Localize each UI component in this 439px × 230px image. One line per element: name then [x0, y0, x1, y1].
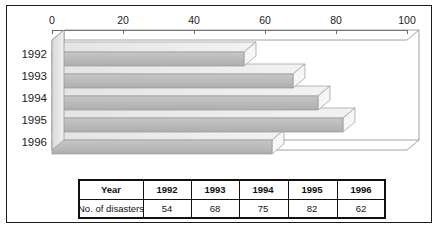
x-tick-label: 0	[49, 14, 55, 26]
x-tick-label: 80	[330, 14, 342, 26]
bar-1992	[52, 42, 256, 66]
y-axis-category-labels: 1992 1993 1994 1995 1996	[21, 48, 47, 148]
table-cell: 1996	[350, 184, 371, 195]
table-cell: 1992	[156, 184, 177, 195]
category-label: 1993	[21, 70, 47, 82]
x-tick-label: 20	[117, 14, 129, 26]
wall-top-right-edge	[407, 30, 419, 40]
bar-1995	[52, 108, 355, 132]
table-cell: 54	[162, 203, 173, 214]
table-cell: 82	[307, 203, 318, 214]
x-tick-label: 60	[259, 14, 271, 26]
bar-chart-3d: 0 20 40 60 80 100	[7, 6, 433, 176]
table-cell: 62	[356, 203, 367, 214]
category-label: 1994	[21, 92, 47, 104]
data-table: Year 1992 1993 1994 1995 1996 No. of dis…	[7, 174, 433, 222]
bar-1994	[52, 86, 330, 110]
figure-frame: 0 20 40 60 80 100	[6, 5, 432, 223]
x-tick-label: 40	[188, 14, 200, 26]
category-label: 1996	[21, 136, 47, 148]
table-cell: 1995	[301, 184, 323, 195]
table-cell: 1994	[252, 184, 274, 195]
category-label: 1995	[21, 114, 47, 126]
chart-canvas: 0 20 40 60 80 100	[7, 6, 433, 176]
x-axis	[52, 30, 407, 34]
table-cell: 1993	[204, 184, 225, 195]
bar-1996	[52, 130, 284, 154]
left-wall-slab	[52, 30, 64, 150]
bar-1993	[52, 64, 305, 88]
chart-figure: 0 20 40 60 80 100	[0, 0, 439, 230]
table-cell: 75	[258, 203, 269, 214]
table-row-header: Year	[101, 184, 121, 195]
table-cell: 68	[210, 203, 221, 214]
table-row: Year 1992 1993 1994 1995 1996	[101, 184, 372, 195]
table-row-header: No. of disasters	[78, 203, 144, 214]
data-table-canvas: Year 1992 1993 1994 1995 1996 No. of dis…	[7, 174, 433, 222]
category-label: 1992	[21, 48, 47, 60]
x-tick-label: 100	[398, 14, 416, 26]
table-row: No. of disasters 54 68 75 82 62	[78, 203, 366, 214]
floor-right-depth-edge	[407, 140, 419, 150]
x-axis-tick-labels: 0 20 40 60 80 100	[49, 14, 416, 26]
